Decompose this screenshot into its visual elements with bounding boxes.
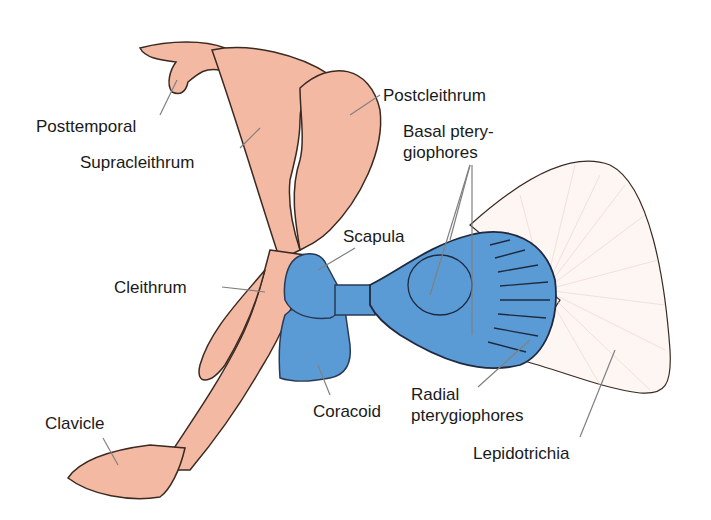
label-radial-pterygiophores-1: Radial xyxy=(411,385,459,404)
clavicle-bone xyxy=(68,445,185,499)
label-posttemporal: Posttemporal xyxy=(36,117,136,136)
postcleithrum-bone xyxy=(294,71,380,250)
fin-joint xyxy=(335,285,375,315)
label-radial-pterygiophores-2: pterygiophores xyxy=(411,406,523,425)
label-clavicle: Clavicle xyxy=(45,414,105,433)
pectoral-girdle-illustration xyxy=(0,0,711,520)
label-supracleithrum: Supracleithrum xyxy=(80,153,194,172)
label-scapula: Scapula xyxy=(343,227,404,246)
label-lepidotrichia: Lepidotrichia xyxy=(473,444,569,463)
label-coracoid: Coracoid xyxy=(313,402,381,421)
label-basal-pterygiophores-1: Basal ptery- xyxy=(403,122,494,141)
label-postcleithrum: Postcleithrum xyxy=(383,86,486,105)
label-cleithrum: Cleithrum xyxy=(114,278,187,297)
label-basal-pterygiophores-2: giophores xyxy=(403,143,478,162)
scapula-bone xyxy=(284,254,342,319)
